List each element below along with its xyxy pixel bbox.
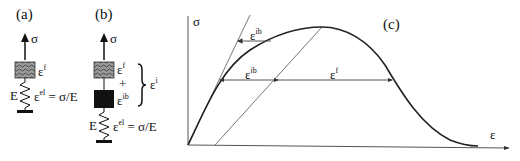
friction-strain-label-a: εf bbox=[38, 63, 46, 80]
stress-label-a: σ bbox=[31, 31, 38, 47]
inelastic-strain-label-b: εi bbox=[150, 76, 158, 93]
block-strain-label-b: εib bbox=[117, 92, 129, 109]
elastic-strain-label-a: εel = σ/E bbox=[34, 88, 78, 105]
stress-strain-curve bbox=[188, 27, 478, 146]
lower-ib-label: εib bbox=[245, 66, 257, 83]
block-element-b bbox=[94, 90, 114, 108]
panel-c-label: (c) bbox=[383, 16, 400, 33]
sup: ib bbox=[122, 92, 128, 101]
y-axis-label: σ bbox=[193, 14, 200, 30]
spring-a bbox=[20, 78, 30, 110]
friction-element-b bbox=[94, 62, 114, 78]
upper-ib-label: εib bbox=[250, 27, 262, 44]
sup: ib bbox=[255, 27, 261, 36]
diagram-canvas bbox=[0, 0, 520, 161]
ground-b bbox=[96, 140, 112, 143]
lower-f-label: εf bbox=[330, 66, 338, 83]
panel-c-plot bbox=[188, 15, 510, 150]
sup: f bbox=[43, 63, 46, 72]
plus-sign: + bbox=[119, 76, 126, 92]
unloading-line bbox=[215, 27, 322, 145]
spring-b bbox=[99, 108, 109, 140]
spring-modulus-label-b: E bbox=[89, 118, 97, 134]
elastic-strain-label-b: εel = σ/E bbox=[113, 118, 157, 135]
sup: f bbox=[122, 61, 125, 70]
x-axis-arrowhead bbox=[504, 146, 510, 150]
stress-label-b: σ bbox=[110, 31, 117, 47]
equation: = σ/E bbox=[124, 119, 156, 134]
spring-modulus-label-a: E bbox=[10, 88, 18, 104]
mid-arrowhead bbox=[274, 78, 279, 82]
sup: i bbox=[155, 76, 157, 85]
equation: = σ/E bbox=[45, 89, 77, 104]
x-axis bbox=[188, 145, 508, 148]
f-arrowhead bbox=[388, 78, 393, 82]
ground-a bbox=[17, 110, 33, 113]
brace-b bbox=[138, 64, 146, 106]
sup: f bbox=[335, 66, 338, 75]
x-axis-label: ε bbox=[490, 127, 495, 143]
panel-b-label: (b) bbox=[95, 6, 113, 23]
stress-arrowhead-b bbox=[100, 33, 108, 42]
stress-arrowhead-a bbox=[21, 33, 29, 42]
friction-element-a bbox=[15, 62, 35, 78]
sup: ib bbox=[250, 66, 256, 75]
panel-a-label: (a) bbox=[16, 6, 33, 23]
